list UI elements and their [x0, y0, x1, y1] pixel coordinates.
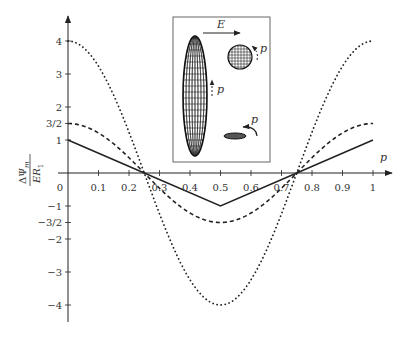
x-tick-label: 0.7: [274, 182, 290, 193]
svg-text:p: p: [251, 113, 258, 126]
x-tick-label: 1: [370, 182, 376, 193]
y-tick-label: −3: [47, 267, 62, 278]
field-label: E: [216, 18, 225, 31]
x-tick-label: 0.8: [304, 182, 320, 193]
x-tick-label: 0.2: [121, 182, 137, 193]
x-tick-label: 0: [57, 182, 63, 193]
y-tick-label: 4: [56, 36, 62, 47]
inset-diagram: E p p p: [173, 17, 270, 162]
svg-text:ΔΨm: ΔΨm: [17, 161, 31, 184]
y-tick-label: −1: [47, 201, 62, 212]
chart: 00.10.20.30.40.50.60.70.80.91 4323/21−1−…: [0, 0, 404, 337]
svg-text:p: p: [217, 83, 224, 96]
y-tick-label: 3: [56, 69, 62, 80]
x-tick-label: 0.1: [91, 182, 107, 193]
y-tick-label: −2: [47, 234, 62, 245]
x-tick-label: 0.4: [182, 182, 198, 193]
y-axis-label: ΔΨm ER1: [17, 154, 45, 186]
svg-text:p: p: [260, 42, 267, 55]
x-tick-label: 0.6: [243, 182, 259, 193]
x-axis-label: p: [380, 151, 387, 164]
y-tick-label: −3/2: [38, 217, 62, 228]
x-tick-label: 0.3: [152, 182, 168, 193]
x-tick-label: 0.5: [213, 182, 229, 193]
y-tick-label: 3/2: [46, 118, 62, 129]
y-tick-label: 2: [56, 102, 62, 113]
svg-text:ER1: ER1: [31, 164, 45, 184]
y-tick-label: −4: [47, 300, 62, 311]
x-tick-label: 0.9: [335, 182, 351, 193]
y-tick-label: 1: [56, 135, 62, 146]
